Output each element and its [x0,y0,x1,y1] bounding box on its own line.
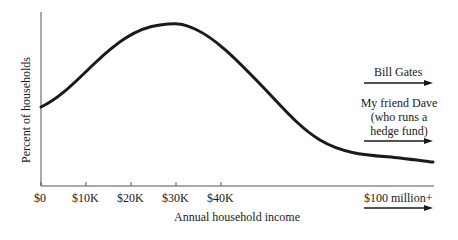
x-tick-label-20k: $20K [117,191,144,205]
x-axis-label: Annual household income [174,210,300,225]
y-axis-label: Percent of households [19,57,34,163]
dave-arrow [364,138,433,144]
bill-gates-arrow [364,80,433,86]
dave-annotation-line-1: My friend Dave [359,96,439,110]
x-tick-label-10k: $10K [72,191,99,205]
dave-annotation-line-3: hedge fund) [359,124,439,138]
x-tick-label-30k: $30K [162,191,189,205]
dave-annotation: My friend Dave (who runs a hedge fund) [359,96,439,138]
x-tick-label-40k: $40K [207,191,234,205]
x-axis-ticks [41,182,221,186]
end-tick-arrow [364,205,433,211]
dave-annotation-line-2: (who runs a [359,110,439,124]
x-tick-label-0: $0 [34,191,46,205]
bill-gates-annotation: Bill Gates [374,65,422,79]
x-tick-label-end: $100 million+ [364,191,432,205]
